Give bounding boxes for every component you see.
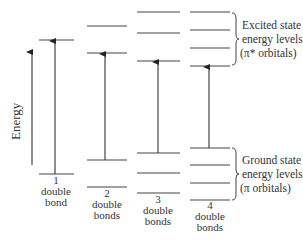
column-text-line: bonds	[145, 215, 171, 227]
ground-brace	[232, 148, 239, 200]
level-lines	[39, 12, 230, 200]
column-text-line: bond	[45, 196, 68, 208]
column-text-line: bonds	[197, 221, 223, 233]
excited-label-line: energy levels	[242, 33, 303, 46]
ground-label-line: energy levels	[242, 168, 303, 181]
excited-brace	[232, 13, 239, 65]
excited-state-label: Excited state energy levels (π* orbitals…	[240, 19, 303, 60]
transition-arrows	[55, 41, 209, 174]
column-3-label: 3 double bonds	[143, 193, 173, 227]
energy-axis-label: Energy	[8, 102, 23, 140]
ground-state-label: Ground state energy levels (π orbitals)	[240, 154, 303, 195]
excited-label-line: Excited state	[242, 19, 301, 31]
ground-label-line: Ground state	[242, 154, 301, 166]
excited-label-line: (π* orbitals)	[240, 47, 297, 60]
column-text-line: bonds	[94, 209, 120, 221]
energy-level-diagram: Energy 1 double bond 2 double bonds 3 do…	[0, 0, 303, 244]
ground-label-line: (π orbitals)	[240, 182, 291, 195]
column-4-label: 4 double bonds	[195, 199, 225, 233]
column-1-label: 1 double bond	[41, 174, 71, 208]
column-2-label: 2 double bonds	[92, 187, 122, 221]
